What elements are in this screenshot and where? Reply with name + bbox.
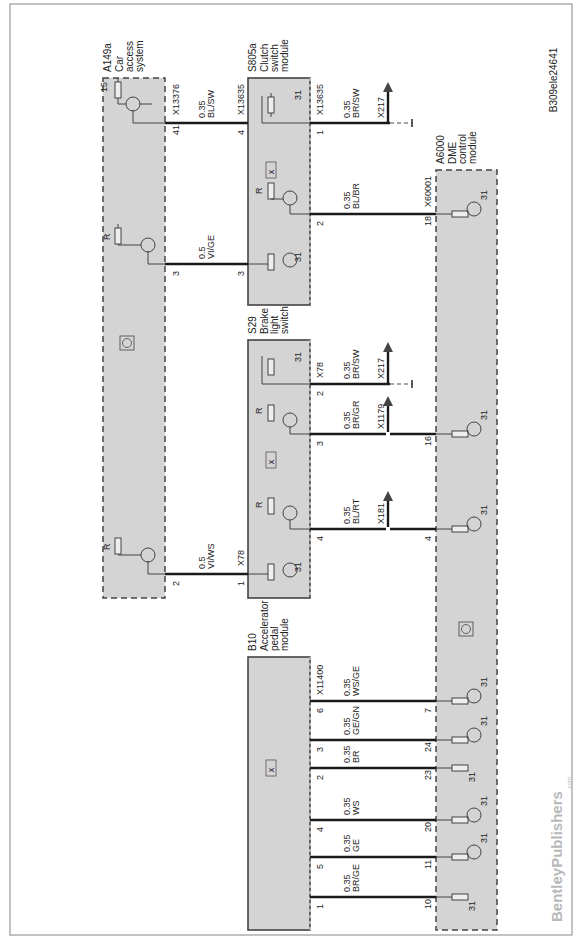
svg-text:R: R [254, 501, 264, 508]
pin-label: 7 [423, 708, 433, 713]
module-s29-box[interactable] [248, 340, 310, 598]
pin-label: 2 [315, 775, 325, 780]
svg-text:module: module [467, 131, 478, 164]
svg-text:R: R [254, 407, 264, 414]
pin-label: 23 [423, 770, 433, 780]
module-b10-label: B10 Accelerator pedal module [247, 600, 290, 651]
splice-x181: X181 [376, 503, 386, 524]
wire-br-sw-s29[interactable]: 0.35 BR/SW X217 2 [310, 342, 412, 396]
pin-label: 16 [423, 436, 433, 446]
module-a6000-label: A6000 DME control module [435, 131, 478, 164]
svg-text:module: module [279, 618, 290, 651]
pin-label: 3 [315, 441, 325, 446]
wire-br[interactable]: 0.35 BR 2 23 [310, 745, 436, 780]
pin-label: 10 [423, 899, 433, 909]
pin-label: 3 [236, 271, 246, 276]
splice-x217: X217 [376, 97, 386, 118]
svg-text:31: 31 [479, 796, 489, 806]
pin-label: 4 [315, 827, 325, 832]
svg-text:x: x [266, 767, 276, 772]
diagram-id: B309ele24641 [548, 47, 559, 112]
connector-x78-in: X78 [236, 550, 246, 566]
pin-label: 2 [315, 391, 325, 396]
svg-text:31: 31 [467, 901, 477, 911]
connector-x13635-out: X13635 [315, 84, 325, 115]
connector-x60001: X60001 [423, 176, 433, 207]
module-a6000-box[interactable] [436, 170, 497, 930]
svg-text:GE/GN: GE/GN [351, 706, 361, 735]
connector-x78-out: X78 [315, 362, 325, 378]
svg-text:BR: BR [351, 750, 361, 763]
pin-label: 2 [171, 581, 181, 586]
svg-text:31: 31 [479, 716, 489, 726]
pin-label: 2 [315, 221, 325, 226]
watermark-brand: BentleyPublishers [548, 791, 565, 922]
svg-text:WS/GE: WS/GE [351, 666, 361, 696]
pin-label: 11 [423, 860, 433, 869]
wire-br-sw-s805a[interactable]: 0.35 BR/SW X217 1 [310, 82, 412, 135]
svg-text:BL/SW: BL/SW [206, 89, 216, 118]
svg-text:31: 31 [293, 252, 303, 262]
svg-text:BR/GE: BR/GE [351, 864, 361, 892]
svg-text:VI/GE: VI/GE [206, 235, 216, 259]
splice-x1179: X1179 [376, 404, 386, 429]
svg-text:BR/SW: BR/SW [351, 88, 361, 118]
svg-text:31: 31 [293, 562, 303, 572]
svg-text:31: 31 [479, 833, 489, 843]
wire-ge[interactable]: 0.35 GE 5 11 [310, 834, 436, 869]
svg-text:S29: S29 [247, 316, 258, 334]
svg-text:x: x [266, 459, 276, 464]
wire-ge-gn[interactable]: 0.35 GE/GN 3 24 [310, 706, 436, 752]
pin-label: 4 [315, 536, 325, 541]
pin-label: 1 [315, 130, 325, 135]
svg-text:S805a: S805a [247, 43, 258, 72]
pin-label: 6 [315, 708, 325, 713]
wire-ws[interactable]: 0.35 WS 4 20 [310, 797, 436, 832]
wire-br-ge[interactable]: 0.35 BR/GE 1 10 [310, 864, 436, 909]
pin-label: 24 [423, 742, 433, 752]
module-s29-label: S29 Brake light switch [247, 306, 290, 334]
svg-text:x: x [266, 169, 276, 174]
svg-text:31: 31 [293, 352, 303, 362]
wire-br-gr[interactable]: 0.35 BR/GR X1179 3 16 [310, 396, 436, 446]
svg-text:BR/SW: BR/SW [351, 349, 361, 379]
svg-text:VI/WS: VI/WS [206, 543, 216, 569]
wire-bl-br[interactable]: 0.35 BL/BR 2 18 [310, 182, 436, 226]
svg-text:31: 31 [479, 190, 489, 200]
pin-label: 20 [423, 822, 433, 832]
pin-label: 1 [236, 581, 246, 586]
supply-15-label: 15 [99, 82, 109, 92]
svg-text:X217: X217 [376, 358, 386, 379]
svg-text:switch: switch [279, 306, 290, 334]
svg-text:31: 31 [467, 772, 477, 782]
pin-label: 3 [171, 271, 181, 276]
svg-text:R: R [102, 543, 112, 550]
svg-text:GE: GE [351, 839, 361, 852]
svg-text:A149a: A149a [102, 43, 113, 72]
wiring-diagram: B309ele24641 BentleyPublishers .com A149… [0, 0, 582, 943]
svg-text:31: 31 [479, 677, 489, 687]
module-s805a-label: S805a Clutch switch module [247, 39, 290, 72]
svg-text:R: R [254, 187, 264, 194]
svg-text:module: module [279, 39, 290, 72]
svg-text:WS: WS [351, 801, 361, 816]
pin-label: 18 [423, 216, 433, 226]
pin-label: 5 [315, 864, 325, 869]
pin-label: 3 [315, 747, 325, 752]
wire-bl-rt[interactable]: 0.35 BL/RT X181 4 4 [310, 491, 436, 541]
svg-text:BR/GR: BR/GR [351, 400, 361, 429]
svg-text:B10: B10 [247, 633, 258, 651]
wire-vi-ge[interactable]: 0.5 VI/GE 3 3 [165, 235, 248, 276]
wire-ws-ge[interactable]: 0.35 WS/GE 6 7 [310, 666, 436, 713]
module-b10-box[interactable] [248, 657, 310, 930]
svg-text:BL/RT: BL/RT [351, 498, 361, 524]
module-a149a-label: A149a Car access system [102, 40, 145, 72]
svg-text:A6000: A6000 [435, 135, 446, 164]
pin-label: 4 [423, 536, 433, 541]
pin-label: 4 [236, 130, 246, 135]
svg-text:R: R [102, 233, 112, 240]
connector-x13635-in: X13635 [236, 84, 246, 115]
pin-label: 41 [171, 125, 181, 135]
svg-text:system: system [134, 40, 145, 72]
svg-text:31: 31 [293, 90, 303, 100]
